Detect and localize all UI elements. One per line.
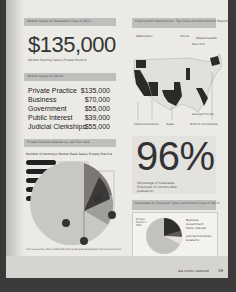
firm-size-pie-chart (24, 155, 120, 245)
map-label: Illinois (180, 34, 189, 38)
employment-rate: 96% (136, 134, 215, 179)
employment-caption: Percentage of Graduates Employed 10 mont… (137, 181, 187, 193)
firm-header-bar: Private Practice Salaries by Law Firm Si… (24, 139, 116, 147)
pie-header: Graduates by Employer Type (Law School C… (135, 201, 220, 205)
brochure-page: Median Salary All Graduates Class of 201… (6, 0, 228, 278)
page-bottom-shade (6, 256, 228, 278)
map-label: District of Columbia (190, 122, 218, 126)
footnote: Firm size salary data collected from gra… (26, 248, 122, 251)
table-row: Private Practice$135,000 (28, 87, 110, 96)
employer-pie-chart (144, 215, 184, 257)
pie-header-bar: Graduates by Employer Type (Law School C… (132, 200, 216, 210)
median-caption: Median Starting Salary Private Practice (28, 58, 87, 62)
page-shadow (6, 0, 24, 278)
page-number: 19 (218, 268, 223, 273)
table-row: Public Interest$39,000 (28, 114, 110, 123)
map-label: Massachusetts (196, 36, 217, 40)
footer-text: law school viewbook (178, 269, 209, 273)
map-label: Washington (136, 34, 152, 38)
map-label: Texas (166, 122, 174, 126)
map-label: Georgia Florida (192, 112, 213, 116)
table-row: Government$55,000 (28, 105, 110, 114)
legend-item: Public Interest (186, 226, 206, 230)
firm-header: Private Practice Salaries by Law Firm Si… (27, 140, 89, 144)
table-header: Median Salary by Sector (27, 74, 64, 78)
salary-header-bar: Median Salary All Graduates Class of 201… (24, 18, 116, 26)
median-salary: $135,000 (28, 32, 116, 58)
table-header-bar: Median Salary by Sector (24, 73, 116, 81)
map-label: New York (192, 42, 205, 46)
map-header-bar: Employment Destinations: Top Cities and … (132, 18, 216, 28)
map-header: Employment Destinations: Top Cities and … (135, 19, 229, 23)
table-row: Judicial Clerkships$55,000 (28, 123, 110, 132)
salary-header: Median Salary All Graduates Class of 201… (27, 19, 91, 23)
map-label: California (134, 122, 147, 126)
legend-item: Academic (186, 238, 200, 242)
map-label: Arizona (148, 122, 159, 126)
table-row: Business$70,000 (28, 96, 110, 105)
